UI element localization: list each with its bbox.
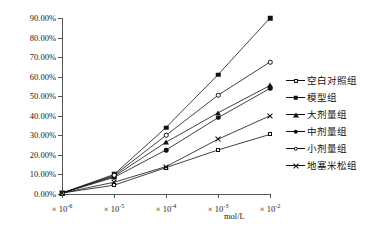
- legend-label: 模型组: [307, 93, 337, 103]
- legend: 空白对照组模型组大剂量组中剂量组小剂量组地塞米松组: [286, 72, 376, 174]
- x-tick: [166, 194, 167, 198]
- plot-area: 0.00%10.00%20.00%30.00%40.00%50.00%60.00…: [62, 18, 270, 194]
- x-tick-label: × 10-2: [260, 203, 281, 213]
- legend-label: 空白对照组: [307, 76, 357, 86]
- data-point: [164, 133, 169, 138]
- y-tick-label: 30.00%: [30, 131, 56, 140]
- legend-item[interactable]: 大剂量组: [286, 106, 376, 123]
- x-tick-label: × 10-6: [52, 203, 73, 213]
- open-square-marker-icon: [216, 148, 220, 152]
- data-point: [164, 148, 169, 153]
- cross-marker-icon: [111, 179, 117, 185]
- open-circle-marker-icon: [112, 173, 117, 178]
- legend-item[interactable]: 地塞米松组: [286, 157, 376, 174]
- y-tick-label: 90.00%: [30, 14, 56, 23]
- y-tick-label: 10.00%: [30, 170, 56, 179]
- y-tick-label: 60.00%: [30, 72, 56, 81]
- cross-marker-icon: [267, 113, 273, 119]
- legend-label: 地塞米松组: [307, 161, 357, 171]
- cross-marker-icon: [59, 190, 65, 196]
- data-point: [268, 60, 273, 65]
- x-tick-label: × 10-5: [104, 203, 125, 213]
- filled-square-marker-icon: [164, 125, 169, 130]
- open-square-marker-icon: [268, 132, 272, 136]
- y-tick-label: 80.00%: [30, 33, 56, 42]
- legend-label: 中剂量组: [307, 127, 347, 137]
- y-tick-label: 70.00%: [30, 53, 56, 62]
- legend-item[interactable]: 模型组: [286, 89, 376, 106]
- data-point: [216, 72, 221, 77]
- legend-key: [286, 93, 305, 103]
- y-tick-label: 40.00%: [30, 112, 56, 121]
- cross-marker-icon: [163, 164, 169, 170]
- legend-item[interactable]: 空白对照组: [286, 72, 376, 89]
- legend-key: [286, 76, 305, 86]
- filled-circle-marker-icon: [268, 86, 273, 91]
- cross-marker-icon: [293, 163, 299, 169]
- open-square-marker-icon: [294, 79, 298, 83]
- x-axis-unit-label: mol/L: [224, 212, 245, 221]
- legend-label: 小剂量组: [307, 144, 347, 154]
- data-point: [268, 86, 273, 91]
- open-circle-marker-icon: [268, 60, 273, 65]
- x-tick: [270, 194, 271, 198]
- filled-circle-marker-icon: [216, 115, 221, 120]
- x-tick: [218, 194, 219, 198]
- legend-item[interactable]: 中剂量组: [286, 123, 376, 140]
- y-tick-label: 20.00%: [30, 151, 56, 160]
- open-circle-marker-icon: [216, 93, 221, 98]
- legend-label: 大剂量组: [307, 110, 347, 120]
- data-point: [268, 16, 273, 21]
- y-tick-label: 50.00%: [30, 92, 56, 101]
- legend-key: [286, 144, 305, 154]
- data-point: [267, 113, 273, 119]
- data-point: [112, 173, 117, 178]
- cross-marker-icon: [215, 136, 221, 142]
- filled-triangle-marker-icon: [293, 112, 299, 117]
- x-tick: [114, 194, 115, 198]
- x-tick-label: × 10-4: [156, 203, 177, 213]
- filled-triangle-marker-icon: [163, 140, 169, 145]
- y-tick-label: 0.00%: [34, 190, 56, 199]
- data-point: [59, 190, 65, 196]
- data-point: [215, 136, 221, 142]
- legend-item[interactable]: 小剂量组: [286, 140, 376, 157]
- filled-square-marker-icon: [268, 16, 273, 21]
- data-point: [111, 179, 117, 185]
- data-point: [163, 140, 169, 145]
- data-point: [216, 115, 221, 120]
- filled-circle-marker-icon: [164, 148, 169, 153]
- filled-circle-marker-icon: [293, 129, 298, 134]
- data-point: [164, 125, 169, 130]
- legend-key: [286, 110, 305, 120]
- data-point: [216, 148, 220, 152]
- data-point: [216, 93, 221, 98]
- open-circle-marker-icon: [164, 133, 169, 138]
- open-circle-marker-icon: [293, 146, 298, 151]
- data-point: [163, 164, 169, 170]
- filled-square-marker-icon: [293, 95, 298, 100]
- legend-key: [286, 161, 305, 171]
- legend-key: [286, 127, 305, 137]
- line-chart: 0.00%10.00%20.00%30.00%40.00%50.00%60.00…: [0, 0, 376, 235]
- filled-square-marker-icon: [216, 72, 221, 77]
- data-point: [268, 132, 272, 136]
